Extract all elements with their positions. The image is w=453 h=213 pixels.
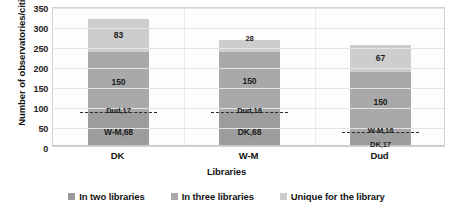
legend-swatch-icon <box>68 193 75 200</box>
bar-group[interactable]: DK,68Dud,1815028 <box>219 40 280 146</box>
bar-segment-label: 28 <box>245 35 253 43</box>
gridline <box>53 8 444 9</box>
category-gridline <box>184 8 185 146</box>
y-axis-tick: 350 <box>18 4 48 14</box>
bar-segment-label: 67 <box>376 54 385 63</box>
gridline <box>53 48 444 49</box>
gridline <box>53 28 444 29</box>
chart-legend: In two librariesIn three librariesUnique… <box>0 191 453 202</box>
category-gridline <box>315 8 316 146</box>
bar-segment[interactable]: 150 <box>219 52 280 112</box>
bar-segment-label: DK,68 <box>238 128 262 137</box>
bar-segment[interactable]: W-M,18 <box>350 132 411 139</box>
legend-item[interactable]: Unique for the library <box>280 191 385 202</box>
bar-segment[interactable]: 150 <box>350 72 411 132</box>
stacked-bar-chart: Number of observatories/cities 350300250… <box>0 0 453 213</box>
bar-segment-label: W-M,18 <box>368 127 394 135</box>
bar-group[interactable]: DK,17W-M,1815067 <box>350 45 411 146</box>
legend-item[interactable]: In three libraries <box>171 191 254 202</box>
legend-label: In three libraries <box>182 191 254 202</box>
gridline <box>53 88 444 89</box>
y-axis-tick: 200 <box>18 64 48 74</box>
bar-segment-label: Dud,17 <box>106 107 130 115</box>
y-axis-tick: 0 <box>18 144 48 154</box>
x-axis-tick: W-M <box>209 150 289 161</box>
x-axis-tick: DK <box>78 150 158 161</box>
y-axis-tick-labels: 350300250200150100500 <box>18 2 48 152</box>
legend-item[interactable]: In two libraries <box>68 191 144 202</box>
y-axis-tick: 100 <box>18 104 48 114</box>
bar-group[interactable]: W-M,68Dud,1715083 <box>88 19 149 146</box>
bar-segment-label: Dud,18 <box>237 107 261 115</box>
bar-segment[interactable]: DK,68 <box>219 119 280 146</box>
legend-swatch-icon <box>280 193 287 200</box>
bar-segment[interactable]: 150 <box>88 52 149 112</box>
y-axis-tick: 150 <box>18 84 48 94</box>
plot-area: W-M,68Dud,1715083DK,68Dud,1815028DK,17W-… <box>52 7 445 147</box>
bar-segment[interactable]: W-M,68 <box>88 119 149 146</box>
bar-segment[interactable]: Dud,18 <box>219 112 280 119</box>
legend-label: Unique for the library <box>291 191 385 202</box>
bar-segment-label: 150 <box>374 98 388 107</box>
x-axis-title: Libraries <box>0 166 453 177</box>
x-axis-tick-labels: DKW-MDud <box>52 150 445 166</box>
legend-swatch-icon <box>171 193 178 200</box>
y-axis-tick: 300 <box>18 24 48 34</box>
bar-segment-label: 150 <box>112 78 126 87</box>
bar-segment[interactable]: 28 <box>219 40 280 51</box>
bar-segment-label: 83 <box>114 31 123 40</box>
y-axis-tick: 250 <box>18 44 48 54</box>
bar-segment-label: DK,17 <box>370 141 391 149</box>
bar-segment-label: W-M,68 <box>104 128 133 137</box>
legend-label: In two libraries <box>79 191 144 202</box>
bar-segment-label: 150 <box>243 77 257 86</box>
x-axis-tick: Dud <box>340 150 420 161</box>
y-axis-tick: 50 <box>18 124 48 134</box>
bar-segment[interactable]: Dud,17 <box>88 112 149 119</box>
gridline <box>53 68 444 69</box>
